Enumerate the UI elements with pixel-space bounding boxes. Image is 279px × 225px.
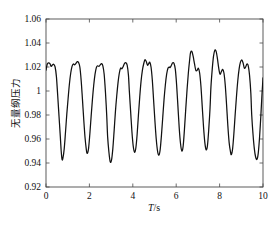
y-tick-label: 1.06 [24, 14, 41, 24]
y-tick-label: 1 [36, 86, 41, 96]
chart-figure: 0.920.940.960.9811.021.041.06 0246810 T/… [0, 0, 279, 225]
x-tick-label: 4 [130, 191, 135, 201]
y-tick-label: 0.96 [24, 134, 41, 144]
y-tick-label: 0.92 [24, 182, 41, 192]
x-axis-title: T/s [148, 202, 160, 213]
x-axis-title-unit: /s [153, 202, 160, 213]
x-tick-label: 6 [174, 191, 179, 201]
chart-plot-svg: 0.920.940.960.9811.021.041.06 0246810 T/… [0, 0, 279, 225]
x-tick-label: 10 [258, 191, 268, 201]
y-tick-label: 1.02 [24, 62, 41, 72]
y-tick-label: 0.94 [24, 158, 41, 168]
x-tick-label: 2 [87, 191, 92, 201]
y-axis-title: 无量纲压力 [10, 78, 21, 128]
y-tick-label: 0.98 [24, 110, 41, 120]
figure-background [0, 0, 279, 225]
x-tick-label: 0 [44, 191, 49, 201]
x-tick-label: 8 [217, 191, 222, 201]
y-tick-label: 1.04 [24, 38, 41, 48]
